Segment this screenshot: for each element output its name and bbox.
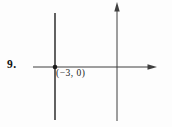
point-label: (−3, 0) bbox=[56, 68, 85, 78]
coordinate-plane bbox=[0, 0, 172, 127]
math-figure-problem-9: 9. (−3, 0) bbox=[0, 0, 172, 127]
arrowhead-right-icon bbox=[148, 64, 158, 69]
arrowhead-up-icon bbox=[114, 2, 119, 12]
